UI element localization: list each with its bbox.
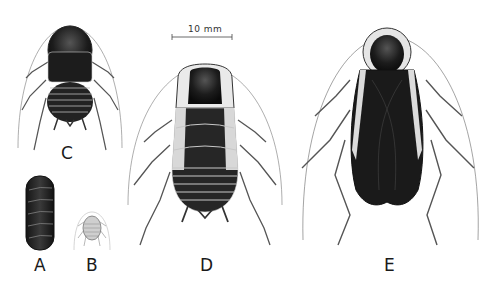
label-b: B [86,255,98,275]
label-e: E [384,255,395,275]
scale-bar-label: 10 mm [188,24,222,34]
scale-bar [172,34,232,40]
illustration-canvas [0,0,490,287]
specimen-c-nymph [18,26,122,150]
specimen-b-first-instar [74,212,110,250]
label-a: A [34,255,46,275]
specimen-e-adult [302,28,478,245]
specimen-d-late-nymph [128,64,282,245]
label-d: D [200,255,213,275]
label-c: C [61,143,73,163]
specimen-a-ootheca [26,176,54,250]
